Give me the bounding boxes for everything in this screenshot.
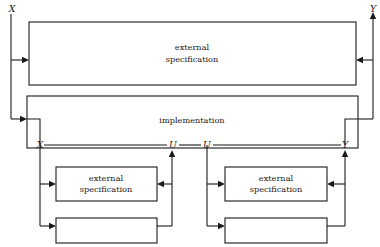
implementation-y-label: Y	[342, 139, 349, 150]
left-group-u-collector-arrowhead	[169, 150, 175, 157]
right-spec-input-arrowhead	[218, 181, 225, 187]
diagram-svg: X Y external specification implementatio…	[0, 0, 380, 247]
left-spec-input-arrowhead	[49, 181, 56, 187]
left-spec-label-line2: specification	[80, 184, 133, 194]
diagram-canvas: X Y external specification implementatio…	[0, 0, 380, 247]
input-x-to-top-spec-arrowhead	[22, 57, 29, 63]
right-spec-output-arrowhead	[327, 181, 334, 187]
right-group-y-collector-arrowhead	[342, 150, 348, 157]
top-spec-label-line2: specification	[166, 54, 219, 64]
internal-u-right-label: U	[203, 139, 212, 150]
left-spec-label-line1: external	[89, 173, 124, 183]
left-blank-input-arrowhead	[49, 223, 56, 229]
right-blank-box	[225, 218, 327, 243]
left-spec-output-arrowhead	[157, 181, 164, 187]
right-blank-input-arrowhead	[218, 223, 225, 229]
input-x-to-implementation-arrowhead	[20, 116, 27, 122]
top-spec-label-line1: external	[175, 42, 210, 52]
output-y-label: Y	[370, 3, 377, 14]
right-spec-label-line1: external	[259, 173, 294, 183]
output-y-to-top-spec-arrowhead	[356, 57, 363, 63]
implementation-x-label: X	[36, 139, 44, 150]
internal-u-left-label: U	[169, 139, 178, 150]
implementation-label: implementation	[159, 115, 225, 125]
left-blank-box	[56, 218, 157, 243]
input-x-label: X	[8, 3, 16, 14]
right-spec-label-line2: specification	[250, 184, 303, 194]
